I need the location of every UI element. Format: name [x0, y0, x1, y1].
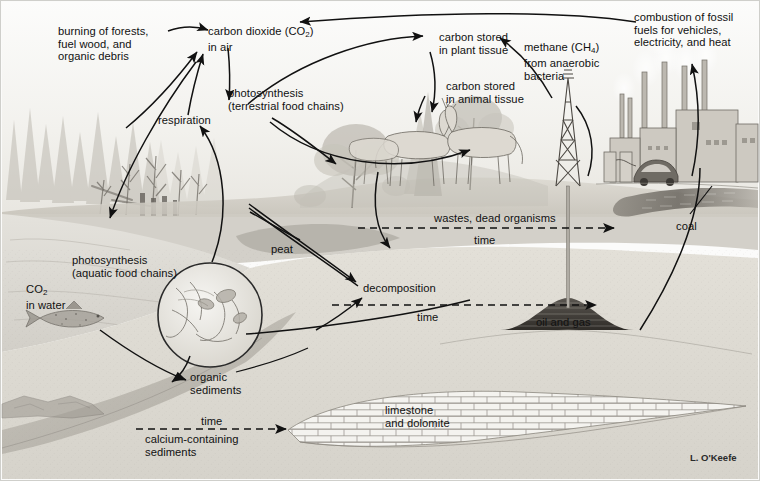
diagram-artwork — [0, 0, 760, 481]
label-respiration: respiration — [158, 114, 211, 127]
label-time-coal: time — [474, 234, 495, 247]
carbon-cycle-diagram: burning of forests,fuel wood, andorganic… — [0, 0, 760, 481]
artist-credit: L. O'Keefe — [690, 452, 737, 463]
label-time-limestone: time — [201, 415, 222, 428]
drill-shaft — [567, 186, 570, 308]
label-limestone-dolomite: limestoneand dolomite — [385, 404, 450, 429]
label-coal: coal — [676, 220, 697, 233]
label-combustion-fossil-fuels: combustion of fossilfuels for vehicles,e… — [634, 11, 733, 49]
label-wastes-dead-organisms: wastes, dead organisms — [434, 212, 556, 225]
label-methane-anaerobic: methane (CH4)from anaerobicbacteria — [524, 41, 599, 83]
label-photosynthesis-aquatic: photosynthesis(aquatic food chains) — [72, 254, 177, 279]
label-photosynthesis-terrestrial: photosynthesis(terrestrial food chains) — [228, 87, 344, 112]
label-carbon-dioxide-in-air: carbon dioxide (CO2)in air — [208, 25, 314, 54]
label-organic-sediments: organicsediments — [190, 371, 241, 396]
label-calcium-sediments: calcium-containingsediments — [145, 433, 239, 458]
label-carbon-stored-plant: carbon storedin plant tissue — [439, 31, 508, 56]
label-carbon-stored-animal: carbon storedin animal tissue — [446, 80, 524, 105]
label-oil-and-gas: oil and gas — [536, 316, 591, 329]
label-peat: peat — [271, 243, 293, 256]
label-time-oil: time — [417, 311, 438, 324]
label-burning-of-forests: burning of forests,fuel wood, andorganic… — [58, 25, 149, 63]
label-decomposition: decomposition — [363, 282, 436, 295]
label-co2-in-water: CO2in water — [26, 283, 66, 312]
